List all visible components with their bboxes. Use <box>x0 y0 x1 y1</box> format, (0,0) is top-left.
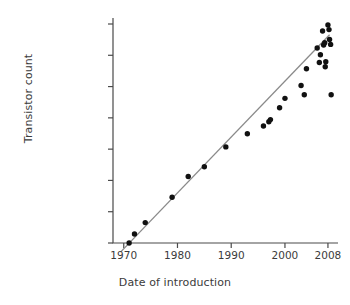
x-tick-label: 1980 <box>164 250 191 261</box>
axes <box>113 18 338 243</box>
data-point <box>277 105 282 110</box>
data-point <box>268 117 273 122</box>
moores-law-trend-line <box>121 35 330 252</box>
data-point <box>223 144 228 149</box>
x-tick-label: 1990 <box>218 250 245 261</box>
data-point <box>317 60 322 65</box>
x-tick-label: 1970 <box>110 250 137 261</box>
data-point <box>328 42 333 47</box>
axis-lines <box>113 18 338 243</box>
data-point <box>320 28 325 33</box>
x-tick-marks <box>124 243 328 248</box>
data-point <box>186 174 191 179</box>
data-point <box>323 64 328 69</box>
data-point <box>202 164 207 169</box>
data-point <box>169 195 174 200</box>
trend-line <box>121 35 330 252</box>
data-point <box>314 45 319 50</box>
data-point <box>245 131 250 136</box>
data-point <box>282 96 287 101</box>
data-point <box>132 231 137 236</box>
x-axis-tick-labels: 19701980199020002008 <box>0 250 350 266</box>
data-point <box>302 92 307 97</box>
data-point <box>327 37 332 42</box>
data-point <box>143 220 148 225</box>
x-tick-label: 2008 <box>315 250 342 261</box>
data-points <box>126 22 333 245</box>
data-point <box>318 52 323 57</box>
transistor-count-chart: Transistor count Date of introduction 2,… <box>0 0 350 305</box>
data-point <box>261 123 266 128</box>
y-tick-marks <box>108 24 113 243</box>
data-point <box>304 66 309 71</box>
data-point <box>325 22 330 27</box>
data-point <box>298 83 303 88</box>
data-point <box>126 240 131 245</box>
data-point <box>326 27 331 32</box>
data-point <box>323 59 328 64</box>
data-point <box>322 40 327 45</box>
x-tick-label: 2000 <box>272 250 299 261</box>
data-point <box>328 92 333 97</box>
